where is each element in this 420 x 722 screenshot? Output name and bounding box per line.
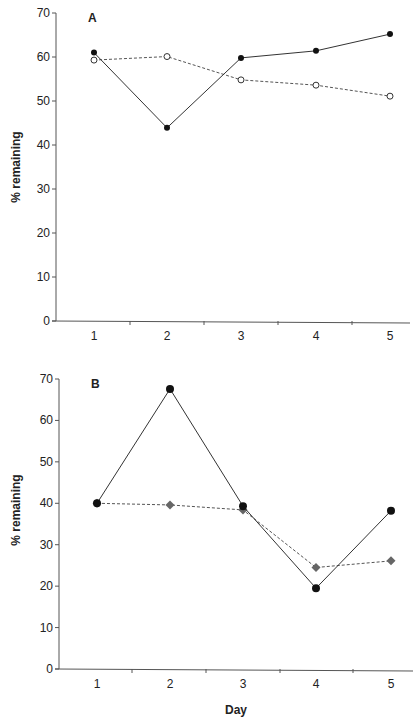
data-point-diamond <box>387 556 396 565</box>
y-tick-label: 40 <box>40 496 54 510</box>
x-tick-label: 2 <box>167 677 174 691</box>
data-point-open-circle <box>387 93 393 99</box>
y-tick-label: 10 <box>40 621 54 635</box>
y-tick-label: 20 <box>37 226 51 240</box>
data-point-open-circle <box>164 54 170 60</box>
y-tick-label: 60 <box>37 50 51 64</box>
y-tick-label: 60 <box>40 413 54 427</box>
data-point-filled-circle <box>166 385 174 393</box>
series-filled-circle <box>93 385 395 592</box>
y-tick-label: 50 <box>37 94 51 108</box>
y-tick-label: 20 <box>40 579 54 593</box>
y-axis-title: % remaining <box>9 131 23 202</box>
x-tick-label: 5 <box>387 329 394 343</box>
data-point-filled-circle <box>239 502 247 510</box>
data-point-filled-circle <box>164 125 170 131</box>
panel-a: 01020304050607012345A% remaining <box>9 6 410 343</box>
x-tick-label: 2 <box>164 329 171 343</box>
y-tick-label: 50 <box>40 455 54 469</box>
data-point-diamond <box>312 563 321 572</box>
y-tick-label: 0 <box>43 314 50 328</box>
data-point-filled-circle <box>93 499 101 507</box>
x-axis-line <box>55 669 413 671</box>
data-point-filled-circle <box>387 31 393 37</box>
data-point-filled-circle <box>312 584 320 592</box>
y-tick-label: 30 <box>37 182 51 196</box>
y-tick-label: 30 <box>40 538 54 552</box>
panel-label: A <box>88 11 97 25</box>
data-point-filled-circle <box>387 507 395 515</box>
x-axis-line <box>52 321 410 323</box>
panel-label: B <box>91 377 100 391</box>
y-tick-label: 40 <box>37 138 51 152</box>
x-tick-label: 3 <box>238 329 245 343</box>
data-point-diamond <box>166 500 175 509</box>
y-tick-label: 70 <box>37 6 51 20</box>
series-line <box>97 389 391 588</box>
line-chart-figure: 01020304050607012345A% remaining 0102030… <box>0 0 420 722</box>
y-tick-label: 10 <box>37 270 51 284</box>
x-tick-label: 3 <box>240 677 247 691</box>
y-axis-title: % remaining <box>9 474 23 545</box>
data-point-filled-circle <box>238 55 244 61</box>
y-tick-label: 70 <box>40 372 54 386</box>
data-point-open-circle <box>313 82 319 88</box>
data-point-filled-circle <box>313 48 319 54</box>
x-tick-label: 5 <box>388 677 395 691</box>
x-tick-label: 1 <box>94 677 101 691</box>
data-point-filled-circle <box>91 50 97 56</box>
y-tick-label: 0 <box>46 662 53 676</box>
panel-b: 01020304050607012345B% remainingDay <box>9 372 413 717</box>
figure: 01020304050607012345A% remaining 0102030… <box>0 0 420 722</box>
x-tick-label: 4 <box>313 329 320 343</box>
x-axis-title: Day <box>225 703 247 717</box>
x-tick-label: 1 <box>91 329 98 343</box>
series-line <box>94 57 390 97</box>
x-tick-label: 4 <box>313 677 320 691</box>
data-point-open-circle <box>91 57 97 63</box>
data-point-open-circle <box>238 77 244 83</box>
